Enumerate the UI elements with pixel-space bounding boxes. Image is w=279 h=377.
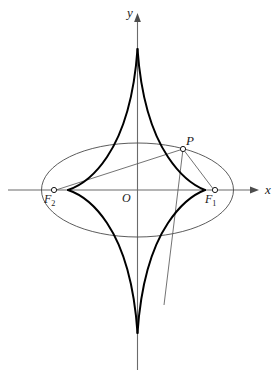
ray-p-to-f2 bbox=[56, 149, 183, 190]
y-axis-label: y bbox=[127, 5, 133, 21]
origin-label: O bbox=[122, 191, 131, 206]
evolute-arc-lower-right bbox=[138, 190, 206, 333]
rays-group bbox=[56, 149, 214, 305]
figure-canvas: y x O P F1 F2 bbox=[0, 0, 279, 377]
evolute-arc-upper-left bbox=[68, 49, 138, 190]
geometry-diagram bbox=[0, 0, 279, 377]
evolute-arc-lower-left bbox=[68, 190, 138, 333]
point-label-f2: F2 bbox=[44, 192, 55, 208]
point-label-f1: F1 bbox=[205, 192, 216, 208]
x-axis-label: x bbox=[265, 182, 271, 198]
point-label-p: P bbox=[186, 133, 194, 149]
y-axis-arrowhead bbox=[134, 13, 141, 22]
evolute-arc-upper-right bbox=[138, 49, 206, 190]
ray-p-to-f1 bbox=[183, 149, 214, 190]
point-marker-p[interactable] bbox=[180, 146, 185, 151]
evolute-group bbox=[68, 49, 205, 333]
point-label-f1-subscript: 1 bbox=[212, 199, 216, 208]
x-axis-arrowhead bbox=[250, 187, 259, 194]
point-label-f2-subscript: 2 bbox=[51, 199, 55, 208]
